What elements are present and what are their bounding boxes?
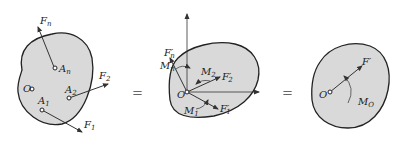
label-f-prime: F′ bbox=[361, 56, 372, 67]
point-an bbox=[53, 66, 57, 70]
label-fn-prime: F′n bbox=[163, 47, 175, 60]
origin-point bbox=[328, 90, 332, 94]
panel-original-system: Fn An O A2 F2 A1 F1 bbox=[18, 15, 111, 132]
label-fn: Fn bbox=[39, 15, 52, 28]
panel-resultant-system: O F′ MO bbox=[312, 44, 389, 128]
label-o: O bbox=[23, 83, 31, 94]
point-a1 bbox=[40, 108, 44, 112]
equals-sign-2: = bbox=[282, 85, 293, 100]
label-o: O bbox=[177, 89, 185, 100]
label-mn: Mn bbox=[159, 60, 175, 73]
label-f2: F2 bbox=[98, 70, 111, 83]
origin-point bbox=[185, 90, 189, 94]
rigid-body bbox=[18, 33, 93, 125]
equals-sign-1: = bbox=[132, 85, 143, 100]
panel-translated-system: O F′n Mn M2 F′2 M1 F′1 bbox=[159, 14, 259, 118]
label-f1: F1 bbox=[83, 119, 95, 132]
label-o: O bbox=[319, 89, 327, 100]
point-a2 bbox=[67, 96, 71, 100]
force-system-diagram: Fn An O A2 F2 A1 F1 = O F′n Mn M2 F′2 bbox=[0, 0, 404, 142]
